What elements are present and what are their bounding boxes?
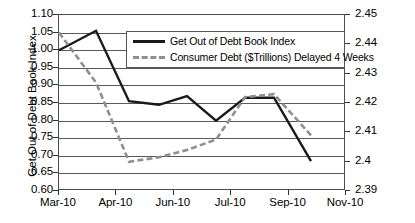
y-axis-left-tick xyxy=(53,14,58,15)
y-axis-right-tick xyxy=(345,43,350,44)
x-axis-tick-label: Mar-10 xyxy=(28,196,88,208)
x-axis-tick-label: Jul-10 xyxy=(200,196,260,208)
x-axis-tick xyxy=(288,190,289,195)
y-axis-left-tick-label: 0.85 xyxy=(5,96,53,108)
y-axis-left-tick xyxy=(53,137,58,138)
chart-legend: Get Out of Debt Book Index Consumer Debt… xyxy=(126,31,345,68)
y-axis-left-tick xyxy=(53,102,58,103)
y-axis-left-tick xyxy=(53,32,58,33)
legend-swatch-solid-icon xyxy=(133,36,165,46)
x-axis-tick-label: Apr-10 xyxy=(85,196,145,208)
y-axis-right-tick xyxy=(345,131,350,132)
y-axis-right-tick-label: 2.39 xyxy=(355,184,395,196)
y-axis-right-tick xyxy=(345,14,350,15)
x-axis-tick xyxy=(173,190,174,195)
y-axis-left-tick-label: 1.10 xyxy=(5,8,53,20)
x-axis-tick-label: Nov-10 xyxy=(315,196,375,208)
y-axis-left-tick-label: 0.90 xyxy=(5,78,53,90)
y-axis-left-tick xyxy=(53,155,58,156)
y-axis-left-tick xyxy=(53,172,58,173)
y-axis-left-tick-label: 0.75 xyxy=(5,131,53,143)
legend-swatch-dashed-icon xyxy=(133,52,165,62)
y-axis-left-tick xyxy=(53,49,58,50)
y-axis-right-tick xyxy=(345,102,350,103)
x-axis-tick xyxy=(345,190,346,195)
y-axis-right-tick-label: 2.4 xyxy=(355,155,395,167)
x-axis-tick xyxy=(230,190,231,195)
y-axis-left-tick xyxy=(53,84,58,85)
y-axis-left-tick-label: 0.95 xyxy=(5,61,53,73)
y-axis-right-tick-label: 2.45 xyxy=(355,8,395,20)
y-axis-left-tick xyxy=(53,67,58,68)
y-axis-right-tick-label: 2.42 xyxy=(355,96,395,108)
y-axis-right-tick-label: 2.43 xyxy=(355,67,395,79)
x-axis-tick-label: Sep-10 xyxy=(258,196,318,208)
y-axis-left-tick-label: 0.70 xyxy=(5,149,53,161)
legend-item-consumer-debt: Consumer Debt ($Trillions) Delayed 4 Wee… xyxy=(127,49,344,65)
y-axis-left-tick-label: 0.80 xyxy=(5,114,53,126)
y-axis-right-tick xyxy=(345,161,350,162)
x-axis-tick xyxy=(58,190,59,195)
chart-container: Get Out of Debt Book Index US Consumer D… xyxy=(0,0,415,223)
y-axis-left-tick-label: 1.05 xyxy=(5,26,53,38)
y-axis-left-tick-label: 0.60 xyxy=(5,184,53,196)
y-axis-left-tick-label: 1.00 xyxy=(5,43,53,55)
x-axis-tick-label: Jun-10 xyxy=(143,196,203,208)
legend-label-book-index: Get Out of Debt Book Index xyxy=(165,36,295,47)
legend-item-book-index: Get Out of Debt Book Index xyxy=(127,33,344,49)
y-axis-left-tick xyxy=(53,120,58,121)
y-axis-left-tick-label: 0.65 xyxy=(5,166,53,178)
legend-label-consumer-debt: Consumer Debt ($Trillions) Delayed 4 Wee… xyxy=(165,52,374,63)
x-axis-tick xyxy=(115,190,116,195)
y-axis-right-tick-label: 2.41 xyxy=(355,125,395,137)
y-axis-right-tick-label: 2.44 xyxy=(355,37,395,49)
y-axis-right-tick xyxy=(345,73,350,74)
